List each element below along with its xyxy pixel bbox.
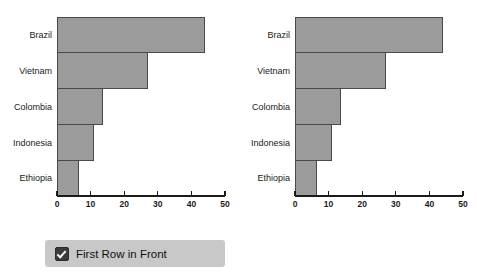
bar-indonesia: [295, 124, 332, 160]
legend-panel[interactable]: First Row in Front: [45, 240, 225, 267]
bar-ethiopia: [57, 160, 79, 196]
category-label-indonesia: Indonesia: [13, 138, 52, 148]
bar-vietnam: [295, 53, 386, 89]
category-label-ethiopia: Ethiopia: [19, 173, 52, 183]
first-row-in-front-checkbox[interactable]: [55, 247, 69, 261]
bar-ethiopia: [295, 160, 317, 196]
bar-colombia: [295, 89, 340, 125]
x-tick-label-50: 50: [458, 199, 468, 209]
x-tick-label-30: 30: [391, 199, 401, 209]
bar-indonesia: [57, 124, 94, 160]
bar-chart-left: BrazilVietnamColombiaIndonesiaEthiopia01…: [0, 0, 238, 232]
x-tick-label-50: 50: [220, 199, 230, 209]
chart-panel-left: BrazilVietnamColombiaIndonesiaEthiopia01…: [0, 0, 238, 232]
charts-row: BrazilVietnamColombiaIndonesiaEthiopia01…: [0, 0, 477, 232]
category-label-vietnam: Vietnam: [19, 66, 52, 76]
category-label-colombia: Colombia: [252, 102, 290, 112]
bar-brazil: [295, 17, 443, 53]
category-label-brazil: Brazil: [267, 30, 290, 40]
bar-chart-right: BrazilVietnamColombiaIndonesiaEthiopia01…: [238, 0, 476, 232]
x-tick-label-40: 40: [425, 199, 435, 209]
bar-brazil: [57, 17, 205, 53]
category-label-indonesia: Indonesia: [251, 138, 290, 148]
category-label-colombia: Colombia: [14, 102, 52, 112]
category-label-brazil: Brazil: [29, 30, 52, 40]
bar-colombia: [57, 89, 102, 125]
x-tick-label-0: 0: [55, 199, 60, 209]
x-tick-label-10: 10: [86, 199, 96, 209]
first-row-in-front-label: First Row in Front: [76, 248, 167, 260]
category-label-ethiopia: Ethiopia: [257, 173, 290, 183]
category-label-vietnam: Vietnam: [257, 66, 290, 76]
x-tick-label-40: 40: [187, 199, 197, 209]
x-tick-label-20: 20: [119, 199, 129, 209]
x-tick-label-10: 10: [324, 199, 334, 209]
bar-vietnam: [57, 53, 148, 89]
x-tick-label-20: 20: [357, 199, 367, 209]
x-tick-label-0: 0: [293, 199, 298, 209]
x-tick-label-30: 30: [153, 199, 163, 209]
chart-panel-right: BrazilVietnamColombiaIndonesiaEthiopia01…: [238, 0, 476, 232]
